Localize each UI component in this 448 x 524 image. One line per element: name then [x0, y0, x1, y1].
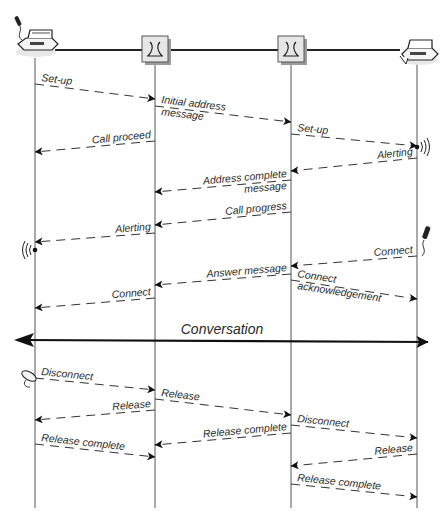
- message-label: Release: [161, 386, 201, 402]
- message-arrow: [155, 399, 291, 415]
- message-m11: Connectacknowledgement: [291, 267, 417, 304]
- message-m2: Initial addressmessage: [155, 93, 291, 122]
- message-arrow: [35, 84, 155, 99]
- message-label: Release complete: [202, 420, 287, 439]
- message-label: Set-up: [41, 71, 73, 87]
- messages: Set-upInitial addressmessageSet-upCall p…: [35, 71, 417, 497]
- message-m5: Alerting: [291, 145, 417, 171]
- message-label: Alerting: [376, 145, 414, 161]
- message-label: Disconnect: [41, 365, 95, 382]
- message-label: Call proceed: [91, 128, 152, 145]
- message-arrow: [291, 454, 417, 466]
- calling-telephone-icon: [14, 16, 58, 57]
- message-m14: Release: [155, 386, 291, 415]
- message-m16: Release complete: [155, 420, 291, 445]
- message-m4: Call proceed: [35, 128, 155, 152]
- message-label-line2: message: [244, 179, 288, 195]
- conversation-label: Conversation: [181, 321, 264, 337]
- called-telephone-icon: [400, 40, 438, 65]
- message-label: Connect: [111, 285, 152, 300]
- message-arrow: [291, 134, 417, 146]
- message-m18: Release complete: [35, 431, 155, 457]
- message-arrow: [291, 158, 417, 171]
- message-m15: Release: [35, 397, 155, 420]
- originating-exchange-switch-icon: [142, 36, 171, 65]
- message-arrow: [35, 378, 155, 390]
- message-arrow: [155, 212, 291, 225]
- message-m17: Disconnect: [291, 412, 417, 438]
- message-label: Alerting: [114, 220, 152, 235]
- message-label: Release: [374, 441, 414, 457]
- message-label-line2: acknowledgement: [297, 279, 384, 304]
- call-setup-sequence-diagram: Conversation Set-upInitial addressmessag…: [0, 0, 448, 524]
- message-arrow: [35, 410, 155, 420]
- message-m20: Release complete: [291, 471, 417, 497]
- message-m12: Connect: [35, 285, 155, 308]
- handset-lifted-icon: [422, 226, 431, 256]
- message-m8: Alerting: [35, 220, 155, 242]
- conversation-arrow: Conversation: [14, 321, 428, 347]
- message-label: Release: [112, 397, 152, 412]
- message-label: Disconnect: [297, 412, 351, 429]
- terminating-exchange-switch-icon: [278, 36, 307, 65]
- message-label: Connect: [373, 243, 414, 258]
- message-arrow: [291, 256, 417, 266]
- message-arrow: [291, 425, 417, 438]
- message-arrow: [35, 233, 155, 242]
- message-arrow: [35, 298, 155, 308]
- message-m9: Connect: [291, 243, 417, 266]
- message-m13: Disconnect: [35, 365, 155, 390]
- message-m7: Call progress: [155, 199, 291, 225]
- message-label: Answer message: [205, 261, 287, 280]
- sequence-diagram-canvas: Conversation Set-upInitial addressmessag…: [0, 0, 448, 524]
- message-m10: Answer message: [155, 261, 291, 285]
- message-m19: Release: [291, 441, 417, 466]
- message-m1: Set-up: [35, 71, 155, 99]
- message-m6: Address completemessage: [155, 167, 291, 195]
- message-m3: Set-up: [291, 121, 417, 146]
- message-label: Call progress: [224, 199, 287, 217]
- message-label: Set-up: [297, 121, 329, 136]
